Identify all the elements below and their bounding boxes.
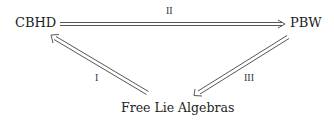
node-pbw: PBW (290, 15, 322, 30)
node-cbhd: CBHD (15, 15, 56, 30)
arrow-cbhd-to-pbw (60, 20, 285, 28)
edge-label-i: I (95, 72, 98, 83)
edge-label-ii: II (166, 5, 173, 16)
node-free-lie-algebras: Free Lie Algebras (121, 100, 234, 115)
arrow-freelie-to-cbhd (51, 35, 149, 95)
arrow-pbw-to-freelie (194, 36, 289, 97)
edge-label-iii: III (244, 72, 254, 83)
